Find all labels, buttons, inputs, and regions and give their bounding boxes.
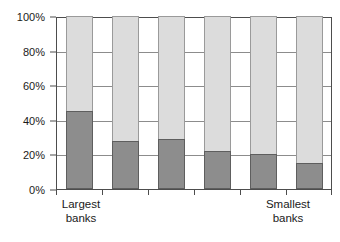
bar-3 bbox=[158, 16, 185, 189]
bar-5-upper-segment bbox=[250, 16, 277, 154]
bar-5-lower-segment bbox=[250, 154, 277, 189]
x-tick-mark-1 bbox=[102, 190, 103, 195]
bar-6-upper-segment bbox=[296, 16, 323, 163]
bar-4-upper-segment bbox=[204, 16, 231, 151]
x-tick-mark-4 bbox=[240, 190, 241, 195]
bar-6-lower-segment bbox=[296, 163, 323, 189]
bar-1-upper-segment bbox=[66, 16, 93, 111]
y-tick-label-80: 80% bbox=[23, 46, 45, 57]
y-tick-label-40: 40% bbox=[23, 115, 45, 126]
x-axis-label-smallest-banks-line1: Smallest bbox=[240, 198, 336, 212]
gridline-20 bbox=[57, 155, 331, 156]
bar-2-lower-segment bbox=[112, 141, 139, 189]
bar-2 bbox=[112, 16, 139, 189]
bar-4-lower-segment bbox=[204, 151, 231, 189]
y-tick-label-60: 60% bbox=[23, 81, 45, 92]
gridline-80 bbox=[57, 52, 331, 53]
bar-4 bbox=[204, 16, 231, 189]
bar-5 bbox=[250, 16, 277, 189]
y-tick-label-0: 0% bbox=[29, 185, 45, 196]
x-tick-mark-0 bbox=[56, 190, 57, 195]
x-tick-mark-3 bbox=[194, 190, 195, 195]
x-tick-mark-2 bbox=[148, 190, 149, 195]
bar-3-lower-segment bbox=[158, 139, 185, 189]
stacked-bar-chart: 100% 80% 60% 40% 20% 0% Largest banks bbox=[0, 0, 340, 242]
gridline-40 bbox=[57, 121, 331, 122]
bar-2-upper-segment bbox=[112, 16, 139, 141]
x-axis-label-smallest-banks: Smallest banks bbox=[240, 198, 336, 225]
plot-area bbox=[56, 17, 332, 190]
gridline-60 bbox=[57, 86, 331, 87]
bar-3-upper-segment bbox=[158, 16, 185, 139]
y-tick-label-100: 100% bbox=[17, 12, 45, 23]
x-axis-label-largest-banks-line1: Largest bbox=[36, 198, 126, 212]
bar-1 bbox=[66, 16, 93, 189]
x-tick-mark-6 bbox=[331, 190, 332, 195]
x-tick-mark-5 bbox=[286, 190, 287, 195]
bar-1-lower-segment bbox=[66, 111, 93, 189]
x-axis-label-largest-banks-line2: banks bbox=[36, 212, 126, 226]
x-axis-label-largest-banks: Largest banks bbox=[36, 198, 126, 225]
bar-6 bbox=[296, 16, 323, 189]
x-axis bbox=[56, 190, 332, 198]
y-tick-label-20: 20% bbox=[23, 150, 45, 161]
x-axis-label-smallest-banks-line2: banks bbox=[240, 212, 336, 226]
